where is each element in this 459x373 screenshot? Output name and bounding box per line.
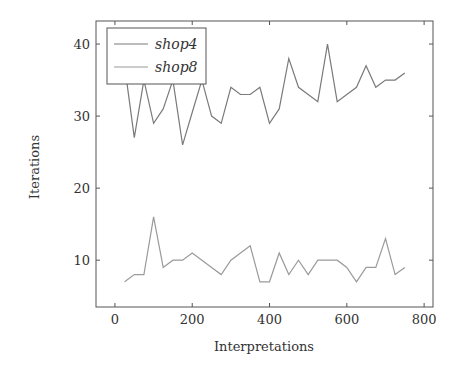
x-axis-label: Interpretations xyxy=(214,339,314,354)
x-tick-label: 800 xyxy=(412,312,437,327)
y-axis-label: Iterations xyxy=(27,135,42,199)
chart: 0 200 400 600 800 10 20 30 40 Interpreta… xyxy=(0,0,459,373)
y-tick-label: 30 xyxy=(73,109,90,124)
x-tick-label: 600 xyxy=(334,312,359,327)
series-line-shop8 xyxy=(125,217,405,282)
y-tick-label: 20 xyxy=(73,181,90,196)
legend-label-shop4: shop4 xyxy=(155,36,198,52)
y-tick-label: 10 xyxy=(73,253,90,268)
x-tick-label: 0 xyxy=(111,312,119,327)
y-tick-label: 40 xyxy=(73,37,90,52)
legend-label-shop8: shop8 xyxy=(155,59,198,75)
x-tick-label: 200 xyxy=(180,312,205,327)
x-tick-label: 400 xyxy=(257,312,282,327)
legend: shop4 shop8 xyxy=(107,28,206,84)
